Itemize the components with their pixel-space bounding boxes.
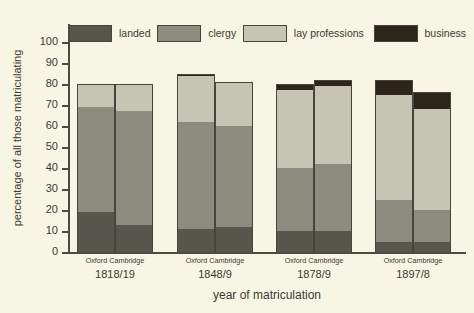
y-axis-label: percentage of all those matriculating: [7, 33, 27, 243]
segment-lay-professions-oxford: [375, 95, 413, 200]
bar-group-1818-19: [77, 42, 153, 252]
x-tick-year-1848-9: 1848/9: [173, 268, 257, 280]
x-subtick-oxford: Oxford: [186, 256, 208, 265]
bar-group-1878-9: [276, 42, 352, 252]
segment-lay-professions-cambridge: [115, 84, 153, 111]
segment-lay-professions-oxford: [177, 76, 215, 122]
x-subtick-pair-1878-9: Oxford Cambridge: [272, 256, 356, 265]
segment-lay-professions-cambridge: [413, 109, 451, 210]
chart-root: landed clergy lay professions business 0…: [0, 0, 474, 313]
legend-swatch-landed: [68, 25, 112, 42]
segment-clergy-cambridge: [314, 164, 352, 231]
segment-clergy-oxford: [177, 122, 215, 229]
bar-cambridge-1848-9[interactable]: [215, 42, 253, 252]
x-subtick-cambridge: Cambridge: [308, 256, 343, 265]
y-tick-90: [62, 63, 69, 65]
bar-cambridge-1818-19[interactable]: [115, 42, 153, 252]
y-tick-20: [62, 210, 69, 212]
x-tick-year-1818-19: 1818/19: [73, 268, 157, 280]
legend-item-business: business: [374, 25, 466, 42]
legend-label-lay-professions: lay professions: [294, 27, 364, 39]
segment-clergy-oxford: [276, 168, 314, 231]
x-subtick-pair-1818-19: Oxford Cambridge: [73, 256, 157, 265]
segment-landed-cambridge: [413, 242, 451, 253]
bar-oxford-1878-9[interactable]: [276, 42, 314, 252]
segment-clergy-cambridge: [115, 111, 153, 224]
segment-landed-cambridge: [115, 225, 153, 252]
y-tick-10: [62, 231, 69, 233]
segment-landed-oxford: [375, 242, 413, 253]
y-tick-100: [62, 42, 69, 44]
x-subtick-cambridge: Cambridge: [209, 256, 244, 265]
y-tick-70: [62, 105, 69, 107]
x-subtick-cambridge: Cambridge: [407, 256, 442, 265]
segment-landed-cambridge: [215, 227, 253, 252]
bar-cambridge-1878-9[interactable]: [314, 42, 352, 252]
x-subtick-oxford: Oxford: [384, 256, 406, 265]
segment-landed-oxford: [177, 229, 215, 252]
x-subtick-pair-1848-9: Oxford Cambridge: [173, 256, 257, 265]
y-tick-40: [62, 168, 69, 170]
legend-item-lay-professions: lay professions: [243, 25, 364, 42]
x-subtick-pair-1897-8: Oxford Cambridge: [371, 256, 455, 265]
y-tick-30: [62, 189, 69, 191]
legend-label-landed: landed: [119, 27, 151, 39]
bar-group-1897-8: [375, 42, 451, 252]
x-tick-year-1878-9: 1878/9: [272, 268, 356, 280]
legend-item-landed: landed: [68, 25, 151, 42]
segment-lay-professions-oxford: [77, 84, 115, 107]
legend-swatch-business: [374, 25, 418, 42]
segment-clergy-oxford: [77, 107, 115, 212]
bar-oxford-1818-19[interactable]: [77, 42, 115, 252]
x-subtick-cambridge: Cambridge: [109, 256, 144, 265]
x-tick-year-1897-8: 1897/8: [371, 268, 455, 280]
segment-lay-professions-cambridge: [215, 82, 253, 126]
y-tick-label-0: 0: [0, 245, 58, 257]
y-tick-60: [62, 126, 69, 128]
legend-swatch-lay-professions: [243, 25, 287, 42]
segment-clergy-cambridge: [215, 126, 253, 227]
plot-area: [69, 42, 466, 252]
segment-landed-cambridge: [314, 231, 352, 252]
segment-business-oxford: [276, 84, 314, 90]
bar-oxford-1848-9[interactable]: [177, 42, 215, 252]
bar-oxford-1897-8[interactable]: [375, 42, 413, 252]
segment-landed-oxford: [77, 212, 115, 252]
x-axis-label: year of matriculation: [68, 288, 466, 302]
segment-clergy-oxford: [375, 200, 413, 242]
segment-landed-oxford: [276, 231, 314, 252]
y-tick-80: [62, 84, 69, 86]
segment-business-oxford: [177, 74, 215, 76]
legend-swatch-clergy: [157, 25, 201, 42]
segment-business-oxford: [375, 80, 413, 95]
segment-business-cambridge: [314, 80, 352, 86]
segment-clergy-cambridge: [413, 210, 451, 242]
x-subtick-oxford: Oxford: [86, 256, 108, 265]
segment-lay-professions-oxford: [276, 90, 314, 168]
bar-group-1848-9: [177, 42, 253, 252]
legend-label-clergy: clergy: [208, 27, 236, 39]
legend-label-business: business: [425, 27, 466, 39]
x-axis-line: [68, 252, 466, 254]
y-tick-50: [62, 147, 69, 149]
legend-item-clergy: clergy: [157, 25, 236, 42]
x-subtick-oxford: Oxford: [285, 256, 307, 265]
bar-cambridge-1897-8[interactable]: [413, 42, 451, 252]
y-tick-0: [62, 252, 69, 254]
segment-lay-professions-cambridge: [314, 86, 352, 164]
segment-business-cambridge: [413, 92, 451, 109]
